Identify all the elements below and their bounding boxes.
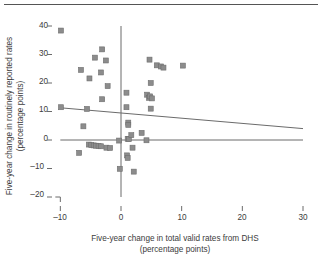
data-point [81,124,86,129]
data-point [98,70,103,75]
data-point [161,65,166,70]
data-point [108,145,113,150]
data-point [103,58,108,63]
reference-lines [60,26,303,197]
data-point [126,122,131,127]
data-point [105,84,110,89]
data-point [131,169,136,174]
data-point [144,138,149,143]
data-point [124,90,129,95]
data-point [149,96,154,101]
data-point [58,105,63,110]
data-point [180,63,185,68]
data-point [98,144,103,149]
data-point [100,97,105,102]
data-point [147,57,152,62]
data-point [100,47,105,52]
data-point [148,106,153,111]
data-point [77,150,82,155]
data-point [125,155,130,160]
data-point [85,106,90,111]
data-point [78,67,83,72]
data-point [117,166,122,171]
data-point [87,76,92,81]
data-point [129,133,134,138]
data-point [124,105,129,110]
axis-corner-bracket [55,197,60,202]
data-points [58,28,185,174]
data-point [117,138,122,143]
scatter-plot-figure: Five-year change in routinely reported r… [0,0,322,262]
axis-ticks [47,26,303,211]
data-point [148,81,153,86]
trend-line [60,108,303,129]
data-point [130,145,135,150]
regression-line [60,108,303,129]
data-point [58,28,63,33]
plot-canvas [0,0,322,262]
data-point [92,55,97,60]
data-point [139,130,144,135]
